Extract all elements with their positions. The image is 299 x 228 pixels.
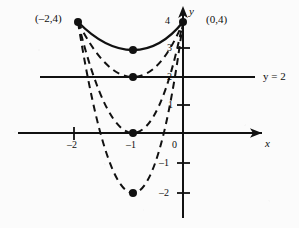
vertex-dashed-parabola-0	[129, 129, 137, 137]
y-tick-label-4: 4	[165, 16, 170, 26]
point-neg2-4	[74, 18, 82, 26]
vertex-solid-parabola	[129, 46, 137, 54]
x-axis-label: x	[265, 138, 270, 149]
y-tick-label-1: 1	[168, 100, 173, 110]
x-tick-label-minus-2: –2	[67, 140, 77, 150]
y-tick-label-3: 3	[167, 43, 172, 53]
y-axis-label: y	[189, 6, 194, 17]
point-label-neg2-4: (–2,4)	[35, 13, 62, 24]
y-equals-2-label: y = 2	[263, 71, 286, 82]
graph-canvas	[0, 0, 299, 228]
vertex-dashed-parabola-2	[129, 73, 137, 81]
x-tick-label-0: 0	[172, 140, 177, 150]
y-tick-label-minus-1: –1	[159, 158, 169, 168]
x-tick-label-minus-1: –1	[126, 140, 136, 150]
point-0-4	[179, 18, 187, 26]
point-label-0-4: (0,4)	[206, 14, 227, 25]
y-tick-label-2: 2	[167, 72, 172, 82]
parabola-family-figure: (–2,4) (0,4) x y y = 2 4 3 2 1 –1 –2 –2 …	[0, 0, 299, 228]
y-tick-label-minus-2: –2	[159, 188, 169, 198]
vertex-dashed-parabola-neg2	[129, 189, 137, 197]
